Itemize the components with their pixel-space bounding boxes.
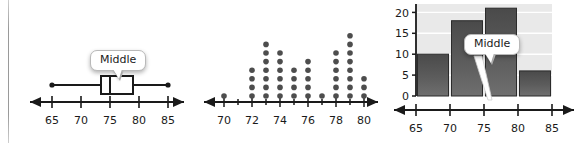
dotplot-dot: [305, 59, 311, 65]
dotplot-tick-label: 80: [357, 114, 371, 127]
dotplot-dot: [305, 76, 311, 82]
histogram-x-tick-labels: 65 70 75 80 85: [409, 122, 559, 135]
dotplot-dot: [263, 76, 269, 82]
dotplot-dot: [263, 93, 269, 99]
dotplot-dot: [319, 93, 325, 99]
dotplot-dot: [347, 67, 353, 73]
dotplot-dot: [361, 93, 367, 99]
dotplot-dot: [277, 67, 283, 73]
three-plot-figure: 65 70 75 80 85 Middle: [0, 0, 581, 143]
histogram-y-tick-labels: 0 5 10 15 20: [395, 7, 409, 104]
callout-tail: [485, 53, 494, 63]
dotplot-dot: [333, 85, 339, 91]
dotplot-svg: 70 72 74 76 78 80: [196, 0, 386, 143]
callout-dotplot-label: Middle: [474, 37, 510, 50]
dotplot-dot: [263, 67, 269, 73]
dotplot-tick-label: 78: [329, 114, 343, 127]
histogram-bar: [418, 54, 449, 96]
dotplot-dot: [347, 33, 353, 39]
left-divider-rule: [8, 0, 9, 143]
boxplot-tick-label: 80: [132, 114, 146, 127]
dotplot-dot: [249, 93, 255, 99]
dotplot-dot: [333, 76, 339, 82]
histogram-y-label: 20: [395, 7, 409, 20]
dotplot-dot: [291, 76, 297, 82]
boxplot-x-tick-labels: 65 70 75 80 85: [45, 114, 175, 127]
histogram-tick-label: 80: [511, 122, 525, 135]
dotplot-dot: [263, 50, 269, 56]
dotplot-dot: [361, 76, 367, 82]
dotplot-dot: [333, 67, 339, 73]
dotplot-dot: [249, 76, 255, 82]
dotplot-dot: [291, 67, 297, 73]
histogram-tick-label: 85: [545, 122, 559, 135]
boxplot-axis: [30, 96, 184, 108]
histogram-tick-label: 65: [409, 122, 423, 135]
dotplot-dot: [263, 85, 269, 91]
dotplot-dot: [347, 59, 353, 65]
dotplot-dot: [291, 93, 297, 99]
histogram-bar: [520, 71, 551, 96]
dotplot-dot: [277, 50, 283, 56]
histogram-y-label: 5: [402, 69, 409, 82]
callout-dotplot: Middle: [464, 34, 520, 55]
histogram-tick-label: 70: [443, 122, 457, 135]
boxplot-panel: 65 70 75 80 85 Middle: [14, 0, 200, 143]
histogram-y-label: 10: [395, 48, 409, 61]
dotplot-dot: [249, 85, 255, 91]
dotplot-dot: [277, 76, 283, 82]
boxplot-tick-label: 75: [103, 114, 117, 127]
dotplot-axis: [204, 97, 378, 107]
dotplot-dot: [347, 50, 353, 56]
boxplot-tick-label: 65: [45, 114, 59, 127]
dotplot-tick-label: 76: [301, 114, 315, 127]
dotplot-x-tick-labels: 70 72 74 76 78 80: [217, 114, 371, 127]
dotplot-tick-label: 72: [245, 114, 259, 127]
dotplot-dot: [305, 85, 311, 91]
boxplot-tick-label: 85: [161, 114, 175, 127]
dotplot-panel: 70 72 74 76 78 80 Middle: [196, 0, 386, 143]
dotplot-dot: [333, 50, 339, 56]
dotplot-dot: [347, 76, 353, 82]
boxplot-tick-label: 70: [74, 114, 88, 127]
histogram-y-label: 15: [395, 27, 409, 40]
callout-boxplot: Middle: [90, 50, 146, 71]
boxplot-svg: 65 70 75 80 85: [14, 0, 200, 143]
dotplot-dot: [347, 42, 353, 48]
dotplot-dot: [347, 85, 353, 91]
dotplot-dot: [221, 93, 227, 99]
dotplot-dot: [291, 85, 297, 91]
callout-tail: [113, 69, 122, 79]
dotplot-dot: [277, 93, 283, 99]
dotplot-dot: [305, 93, 311, 99]
dotplot-dot: [305, 67, 311, 73]
dotplot-tick-label: 74: [273, 114, 287, 127]
dotplot-dot: [277, 59, 283, 65]
dotplot-dot: [333, 93, 339, 99]
dotplot-dot: [347, 93, 353, 99]
dotplot-tick-label: 70: [217, 114, 231, 127]
dotplot-dot: [249, 67, 255, 73]
dotplot-dot: [361, 85, 367, 91]
histogram-x-axis: [394, 104, 574, 116]
dotplot-dot: [263, 59, 269, 65]
dotplot-dot: [263, 42, 269, 48]
dotplot-dot: [333, 59, 339, 65]
dotplot-dots: [221, 33, 367, 99]
histogram-y-label: 0: [402, 90, 409, 103]
histogram-tick-label: 75: [477, 122, 491, 135]
dotplot-dot: [277, 85, 283, 91]
callout-boxplot-label: Middle: [100, 53, 136, 66]
